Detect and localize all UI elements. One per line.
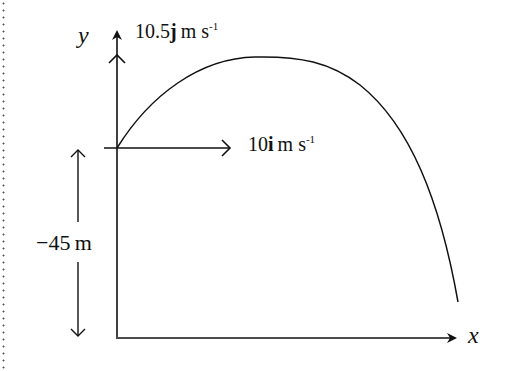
vertical-velocity-label: 10.5j m s-1	[135, 20, 218, 43]
x-axis-label: x	[468, 322, 479, 349]
horizontal-velocity-label: 10i m s-1	[248, 133, 315, 156]
height-label: −45 m	[36, 230, 92, 256]
trajectory-curve	[117, 57, 458, 302]
projectile-diagram	[0, 0, 508, 371]
y-axis-label: y	[78, 22, 89, 49]
